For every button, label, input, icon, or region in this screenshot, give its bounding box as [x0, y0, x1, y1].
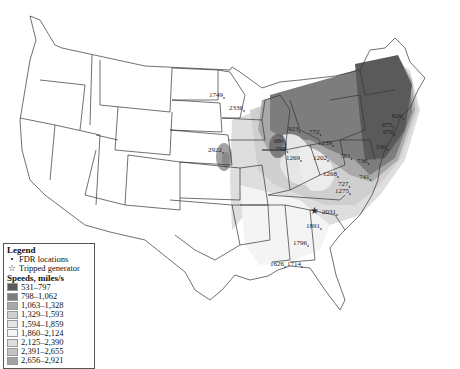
- legend-bin-label: 2,656–2,921: [21, 356, 64, 365]
- fdr-dot-icon: [387, 149, 389, 151]
- fdr-dot-icon: [320, 134, 322, 136]
- fdr-label: 923: [288, 125, 299, 133]
- fdr-dot-icon: [301, 266, 303, 268]
- fdr-label: 772: [309, 128, 320, 136]
- fdr-label: 686: [274, 137, 285, 145]
- fdr-label: 1714: [287, 260, 302, 268]
- fdr-label: 781: [340, 152, 351, 160]
- fdr-dot-icon: [223, 97, 225, 99]
- fdr-dot-icon: [307, 245, 309, 247]
- fdr-dot-icon: [337, 176, 339, 178]
- legend-swatch: [7, 339, 18, 347]
- fdr-dot-icon: [403, 118, 405, 120]
- fdr-dot-icon: [349, 193, 351, 195]
- fdr-dot-icon: [332, 145, 334, 147]
- fdr-dot-icon: [336, 214, 338, 216]
- fdr-label: 1202: [313, 154, 328, 162]
- fdr-dot-icon: [351, 158, 353, 160]
- fdr-label: 736: [357, 157, 368, 165]
- fdr-dot-icon: [394, 134, 396, 136]
- fdr-label: 1891: [306, 222, 321, 230]
- fdr-label: 1275: [335, 187, 350, 195]
- fdr-dot-icon: [327, 160, 329, 162]
- fdr-dot-icon: [222, 152, 224, 154]
- tripped-generator-star-icon: ★: [310, 205, 319, 216]
- fdr-dot-icon: [368, 163, 370, 165]
- fdr-label: 2922: [208, 146, 223, 154]
- fdr-dot-icon: [284, 266, 286, 268]
- fdr-label: 798: [276, 145, 287, 153]
- fdr-label: 2031: [322, 208, 337, 216]
- legend-swatch: [7, 357, 18, 365]
- legend-bins: 531–797798–1,0621,063–1,3281,329–1,5931,…: [7, 283, 91, 366]
- fdr-dot-icon: [299, 131, 301, 133]
- fdr-label: 1796: [293, 239, 308, 247]
- legend-swatch: [7, 329, 18, 337]
- legend-bin: 2,656–2,921: [7, 356, 91, 365]
- fdr-dot-icon: [300, 160, 302, 162]
- fdr-label: 2336: [229, 104, 244, 112]
- fdr-dot-icon: [287, 151, 289, 153]
- legend-swatch: [7, 293, 18, 301]
- fdr-label: 741: [359, 173, 370, 181]
- fdr-label: 1626: [270, 260, 285, 268]
- fdr-label: 1239: [318, 139, 333, 147]
- fdr-label: 670: [383, 128, 394, 136]
- fdr-dot-icon: [370, 179, 372, 181]
- map-legend: Legend • FDR locations ☆ Tripped generat…: [3, 243, 95, 369]
- fdr-label: 1269: [286, 154, 301, 162]
- fdr-label: 1268: [323, 170, 338, 178]
- fdr-dot-icon: [243, 110, 245, 112]
- fdr-label: 626: [392, 112, 403, 120]
- legend-swatch: [7, 302, 18, 310]
- legend-swatch: [7, 311, 18, 319]
- legend-swatch: [7, 348, 18, 356]
- fdr-label: 530: [376, 143, 387, 151]
- fdr-label: 1749: [209, 91, 224, 99]
- legend-swatch: [7, 320, 18, 328]
- fdr-dot-icon: [320, 228, 322, 230]
- legend-swatch: [7, 283, 18, 291]
